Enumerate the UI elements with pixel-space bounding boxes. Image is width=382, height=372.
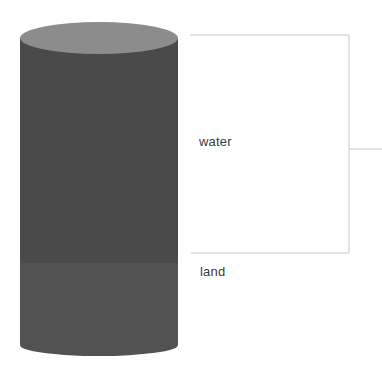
segment-label-land: land: [200, 265, 225, 278]
diagram-svg: [0, 0, 382, 372]
cylinder-segment-land: [20, 263, 178, 356]
cylinder-diagram: water land: [0, 0, 382, 372]
segment-label-water: water: [199, 135, 232, 148]
cylinder-segment-water: [20, 38, 178, 263]
cylinder-top-cap: [20, 22, 178, 54]
